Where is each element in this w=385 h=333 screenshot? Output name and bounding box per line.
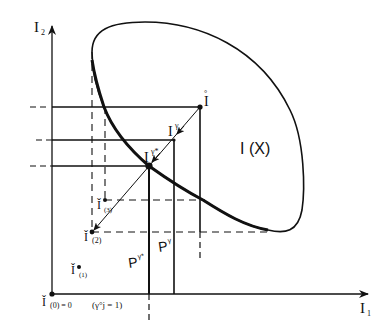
svg-text:I: I xyxy=(168,124,173,139)
point-i-check-1 xyxy=(77,265,81,269)
svg-text:(1): (1) xyxy=(79,271,88,279)
svg-text:γ*: γ* xyxy=(150,147,159,156)
svg-text:(3): (3) xyxy=(104,206,113,214)
svg-text:1: 1 xyxy=(367,309,371,318)
label-i-hat: I ° xyxy=(204,89,209,109)
svg-text:γ: γ xyxy=(174,121,179,130)
svg-text:2: 2 xyxy=(41,28,45,37)
label-p-gamma-star: P γ* xyxy=(127,252,145,271)
svg-text:I: I xyxy=(34,19,39,35)
svg-text:γ*: γ* xyxy=(137,252,145,261)
label-i-check-0: Ǐ (0) = 0 (γ°j = 1) xyxy=(42,295,122,310)
label-p-gamma: P γ xyxy=(157,237,172,255)
point-i-gamma xyxy=(172,138,175,141)
svg-text:Ǐ: Ǐ xyxy=(84,230,88,244)
svg-text:(γ°j = 1): (γ°j = 1) xyxy=(92,300,122,310)
svg-text:Ǐ: Ǐ xyxy=(42,295,46,309)
x-axis-label: I 1 xyxy=(360,300,371,318)
svg-text:I: I xyxy=(360,300,365,316)
point-i-check-2 xyxy=(90,230,95,235)
y-axis-label: I 2 xyxy=(34,19,45,37)
svg-text:(0) = 0: (0) = 0 xyxy=(50,301,72,310)
point-i-check-3 xyxy=(103,198,107,202)
svg-text:(2): (2) xyxy=(92,236,102,245)
region-label: I (X) xyxy=(240,140,270,157)
svg-text:Ǐ: Ǐ xyxy=(97,198,101,212)
point-i-hat xyxy=(197,104,202,109)
svg-text:°: ° xyxy=(204,89,207,98)
svg-text:Ǐ: Ǐ xyxy=(71,263,75,277)
diagram-svg: I 2 I 1 I (X) I ° I γ I γ* Ǐ (3) Ǐ (2) xyxy=(0,0,385,333)
label-i-gamma: I γ xyxy=(168,121,179,139)
svg-text:γ: γ xyxy=(167,237,172,245)
point-i-check-0 xyxy=(49,291,54,296)
diagram-canvas: I 2 I 1 I (X) I ° I γ I γ* Ǐ (3) Ǐ (2) xyxy=(0,0,385,333)
label-i-gamma-star: I γ* xyxy=(144,147,159,165)
dashed-horizontal-guides xyxy=(92,200,270,232)
svg-text:I: I xyxy=(144,150,149,165)
